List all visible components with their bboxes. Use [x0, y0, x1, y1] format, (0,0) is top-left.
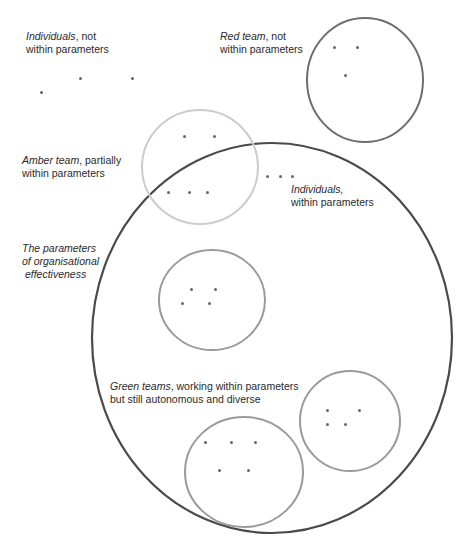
individual-dot [131, 77, 134, 80]
green-team-dot [218, 469, 221, 472]
label-italic: Green teams [110, 380, 171, 392]
label-text: , working within parameters [171, 380, 299, 392]
label-text: within parameters [291, 196, 374, 208]
green-team-circle-3 [300, 371, 400, 471]
label-italic: Individuals [26, 30, 76, 42]
green-team-dot [247, 469, 250, 472]
parameters-label: The parameters of organisational effecti… [22, 242, 99, 281]
individual-dot [279, 175, 282, 178]
green-team-dot [358, 409, 361, 412]
individuals-within-label: Individuals, within parameters [291, 183, 374, 209]
green-team-dot [214, 288, 217, 291]
label-text: within parameters [22, 167, 105, 179]
label-italic: Amber team [22, 154, 79, 166]
green-team-dot [204, 441, 207, 444]
green-team-dot [208, 302, 211, 305]
label-text: , not [76, 30, 96, 42]
amber-team-label: Amber team, partially within parameters [22, 154, 121, 180]
red-team-dot [333, 46, 336, 49]
label-italic: Red team [220, 30, 266, 42]
label-italic: Individuals, [291, 183, 344, 195]
label-text: within parameters [220, 43, 303, 55]
amber-team-dot [167, 191, 170, 194]
green-team-dot [190, 288, 193, 291]
label-text: within parameters [26, 43, 109, 55]
individuals-outside-label: Individuals, not within parameters [26, 30, 109, 56]
green-team-dot [326, 423, 329, 426]
green-team-circle-1 [159, 250, 265, 350]
individual-dot [79, 77, 82, 80]
parameters-circle [92, 143, 452, 533]
green-team-dot [326, 409, 329, 412]
green-teams-label: Green teams, working within parameters b… [110, 380, 299, 406]
green-team-dot [254, 441, 257, 444]
green-team-dot [230, 441, 233, 444]
amber-team-dot [206, 191, 209, 194]
red-team-dot [356, 46, 359, 49]
label-text: of organisational [22, 255, 99, 267]
green-team-circle-2 [185, 417, 303, 527]
amber-team-dot [213, 135, 216, 138]
amber-team-circle [142, 110, 258, 224]
red-team-dot [344, 74, 347, 77]
green-team-dot [344, 423, 347, 426]
red-team-circle [307, 18, 423, 142]
individual-dot [291, 175, 294, 178]
individual-dot [40, 91, 43, 94]
individual-dot [266, 175, 269, 178]
red-team-label: Red team, not within parameters [220, 30, 303, 56]
green-team-dot [181, 302, 184, 305]
label-text: , partially [79, 154, 121, 166]
label-text: , not [266, 30, 286, 42]
amber-team-dot [188, 191, 191, 194]
label-text: effectiveness [22, 268, 86, 280]
label-text: but still autonomous and diverse [110, 393, 261, 405]
amber-team-dot [183, 135, 186, 138]
label-text: The parameters [22, 242, 96, 254]
